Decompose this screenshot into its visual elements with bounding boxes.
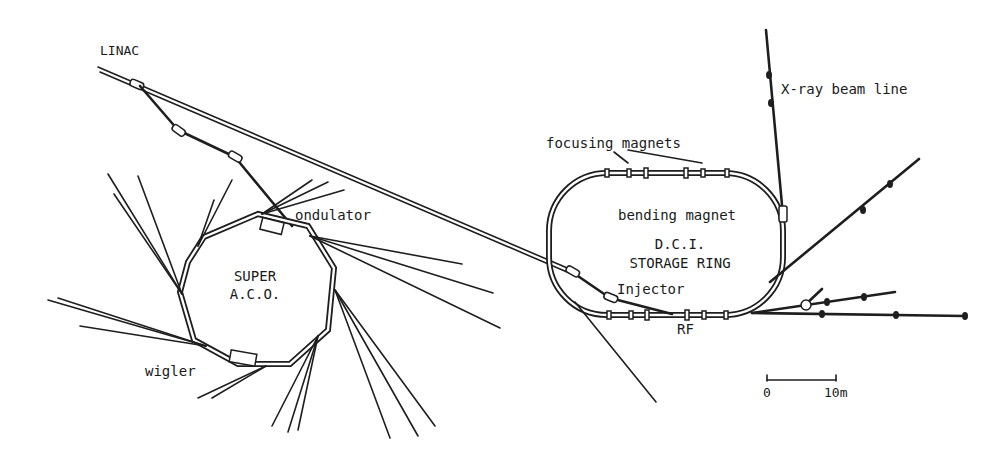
focusing-magnets-label: focusing magnets xyxy=(546,136,681,150)
injector-label: Injector xyxy=(617,282,684,296)
dci-beamlines xyxy=(752,30,968,320)
xray-beam-line-label: X-ray beam line xyxy=(781,82,907,96)
bending-magnet-device xyxy=(779,206,787,222)
scale-end-label: 10m xyxy=(824,386,847,399)
super-aco-label-line2: A.C.O. xyxy=(220,287,290,301)
super-aco-injection-line xyxy=(140,86,292,226)
rf-label: RF xyxy=(677,322,694,336)
bending-magnet-label: bending magnet xyxy=(618,208,736,222)
dci-label-line1: D.C.I. xyxy=(630,237,730,251)
linac-label: LINAC xyxy=(100,44,139,57)
scale-bar xyxy=(767,375,836,381)
scale-start-label: 0 xyxy=(763,386,771,399)
super-aco-label-line1: SUPER xyxy=(220,269,290,283)
ondulator-label: ondulator xyxy=(295,208,371,222)
diagram-drawing xyxy=(0,0,1007,464)
dci-label-line2: STORAGE RING xyxy=(605,256,755,270)
facility-diagram: LINAC X-ray beam line focusing magnets b… xyxy=(0,0,1007,464)
wigler-label: wigler xyxy=(145,364,196,378)
